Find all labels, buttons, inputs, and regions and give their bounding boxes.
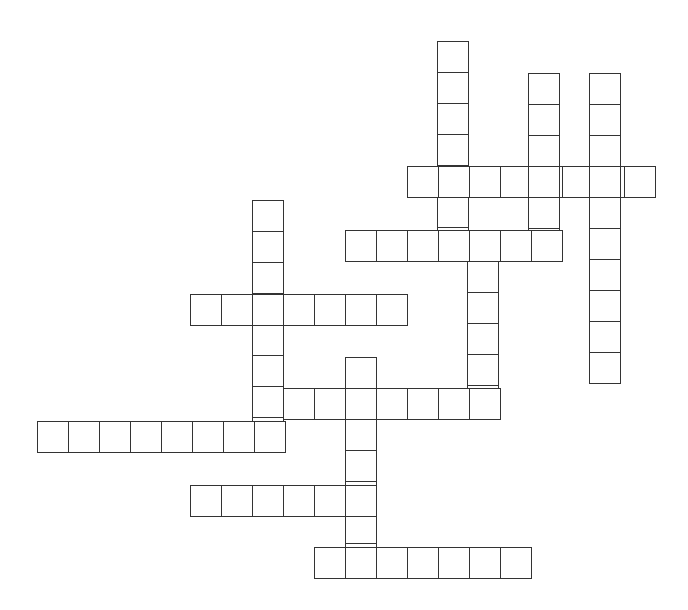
crossword-cell[interactable] bbox=[438, 230, 470, 262]
crossword-cell[interactable] bbox=[500, 230, 532, 262]
crossword-cell[interactable] bbox=[283, 485, 315, 517]
crossword-cell[interactable] bbox=[99, 421, 131, 453]
crossword-cell[interactable] bbox=[589, 166, 621, 198]
crossword-cell[interactable] bbox=[376, 388, 408, 420]
crossword-cell[interactable] bbox=[314, 294, 346, 326]
crossword-cell[interactable] bbox=[314, 547, 346, 579]
crossword-cell[interactable] bbox=[438, 388, 470, 420]
crossword-cell[interactable] bbox=[624, 166, 656, 198]
crossword-cell[interactable] bbox=[528, 135, 560, 167]
crossword-cell[interactable] bbox=[531, 230, 563, 262]
crossword-cell[interactable] bbox=[469, 166, 501, 198]
crossword-cell[interactable] bbox=[252, 324, 284, 356]
crossword-cell[interactable] bbox=[252, 262, 284, 294]
crossword-cell[interactable] bbox=[252, 355, 284, 387]
crossword-cell[interactable] bbox=[528, 73, 560, 105]
crossword-cell[interactable] bbox=[589, 73, 621, 105]
crossword-cell[interactable] bbox=[190, 485, 222, 517]
crossword-cell[interactable] bbox=[283, 388, 315, 420]
crossword-cell[interactable] bbox=[437, 72, 469, 104]
crossword-cell[interactable] bbox=[376, 294, 408, 326]
crossword-cell[interactable] bbox=[314, 388, 346, 420]
crossword-cell[interactable] bbox=[252, 386, 284, 418]
crossword-cell[interactable] bbox=[467, 292, 499, 324]
crossword-cell[interactable] bbox=[252, 294, 284, 326]
crossword-cell[interactable] bbox=[254, 421, 286, 453]
crossword-cell[interactable] bbox=[376, 547, 408, 579]
crossword-cell[interactable] bbox=[407, 230, 439, 262]
crossword-cell[interactable] bbox=[589, 290, 621, 322]
crossword-cell[interactable] bbox=[437, 196, 469, 228]
crossword-cell[interactable] bbox=[589, 352, 621, 384]
crossword-cell[interactable] bbox=[469, 388, 501, 420]
crossword-cell[interactable] bbox=[283, 294, 315, 326]
crossword-cell[interactable] bbox=[589, 135, 621, 167]
crossword-cell[interactable] bbox=[438, 166, 470, 198]
crossword-cell[interactable] bbox=[589, 104, 621, 136]
crossword-cell[interactable] bbox=[528, 104, 560, 136]
crossword-cell[interactable] bbox=[345, 357, 377, 389]
crossword-cell[interactable] bbox=[252, 231, 284, 263]
crossword-cell[interactable] bbox=[589, 228, 621, 260]
crossword-cell[interactable] bbox=[467, 261, 499, 293]
crossword-cell[interactable] bbox=[469, 547, 501, 579]
crossword-cell[interactable] bbox=[68, 421, 100, 453]
crossword-cell[interactable] bbox=[252, 200, 284, 232]
crossword-cell[interactable] bbox=[345, 450, 377, 482]
crossword-cell[interactable] bbox=[130, 421, 162, 453]
crossword-cell[interactable] bbox=[438, 547, 470, 579]
crossword-cell[interactable] bbox=[345, 485, 377, 517]
crossword-cell[interactable] bbox=[221, 294, 253, 326]
crossword-cell[interactable] bbox=[528, 166, 560, 198]
crossword-cell[interactable] bbox=[345, 419, 377, 451]
crossword-cell[interactable] bbox=[221, 485, 253, 517]
crossword-cell[interactable] bbox=[345, 547, 377, 579]
crossword-cell[interactable] bbox=[190, 294, 222, 326]
crossword-cell[interactable] bbox=[467, 354, 499, 386]
crossword-cell[interactable] bbox=[223, 421, 255, 453]
crossword-grid bbox=[0, 0, 688, 610]
crossword-cell[interactable] bbox=[437, 103, 469, 135]
crossword-cell[interactable] bbox=[192, 421, 224, 453]
crossword-cell[interactable] bbox=[469, 230, 501, 262]
crossword-cell[interactable] bbox=[37, 421, 69, 453]
crossword-cell[interactable] bbox=[345, 230, 377, 262]
crossword-cell[interactable] bbox=[252, 485, 284, 517]
crossword-cell[interactable] bbox=[345, 294, 377, 326]
crossword-cell[interactable] bbox=[589, 197, 621, 229]
crossword-cell[interactable] bbox=[437, 134, 469, 166]
crossword-cell[interactable] bbox=[407, 388, 439, 420]
crossword-cell[interactable] bbox=[437, 41, 469, 73]
crossword-cell[interactable] bbox=[589, 259, 621, 291]
crossword-cell[interactable] bbox=[407, 547, 439, 579]
crossword-cell[interactable] bbox=[345, 388, 377, 420]
crossword-cell[interactable] bbox=[161, 421, 193, 453]
crossword-cell[interactable] bbox=[500, 547, 532, 579]
crossword-cell[interactable] bbox=[314, 485, 346, 517]
crossword-cell[interactable] bbox=[528, 197, 560, 229]
crossword-cell[interactable] bbox=[589, 321, 621, 353]
crossword-cell[interactable] bbox=[376, 230, 408, 262]
crossword-cell[interactable] bbox=[407, 166, 439, 198]
crossword-cell[interactable] bbox=[467, 323, 499, 355]
